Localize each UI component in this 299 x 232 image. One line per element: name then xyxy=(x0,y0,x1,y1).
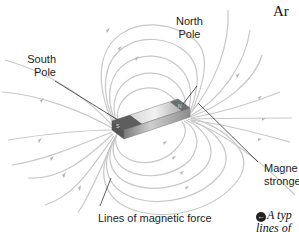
field-strength-leader xyxy=(198,103,258,162)
north-marker: N xyxy=(178,103,182,109)
north-pole-label: North Pole xyxy=(176,15,203,41)
field-strength-label: Magne stronge xyxy=(264,162,299,188)
field-lines-illustration: S N xyxy=(0,0,299,232)
bar-magnet: S N xyxy=(112,99,190,139)
leader-lines xyxy=(55,81,258,206)
heading-fragment: Ar xyxy=(273,3,289,20)
field-lines-label: Lines of magnetic force xyxy=(98,212,212,225)
south-pole-leader xyxy=(55,81,118,120)
figure-caption: ←A typ lines of xyxy=(256,209,292,232)
south-pole-label: South Pole xyxy=(24,53,56,79)
magnet-diagram: S N Ar North Pole South Pole Magne stron… xyxy=(0,0,299,232)
